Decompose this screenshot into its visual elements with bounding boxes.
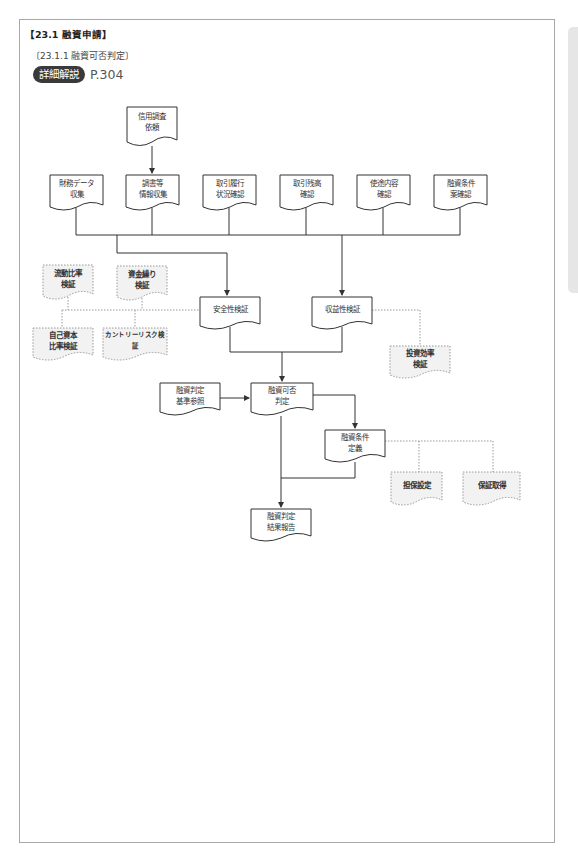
node-cash-flow: 資金繰り 検証: [117, 266, 167, 294]
node-equity-ratio: 自己資本 比率検証: [33, 328, 93, 354]
node-financial-data: 財務データ 収集: [50, 175, 103, 203]
node-loan-terms-check: 融資条件 案確認: [434, 175, 487, 203]
node-profitability-check: 収益性検証: [312, 297, 372, 322]
node-country-risk: カントリーリスク検証: [103, 328, 167, 354]
node-transaction-balance: 取引残高 確認: [280, 175, 333, 203]
node-approval-decision: 融資可否 判定: [251, 383, 313, 409]
node-loan-terms-definition: 融資条件 定義: [325, 430, 385, 456]
node-investment-efficiency: 投資効率 検証: [390, 346, 450, 372]
node-usage-check: 使途内容 確認: [357, 175, 410, 203]
node-survey-info: 調書等 情報収集: [126, 175, 179, 203]
node-transaction-history: 取引履行 状況確認: [203, 175, 256, 203]
node-result-report: 融資判定 結果報告: [251, 509, 311, 535]
node-collateral: 担保設定: [391, 472, 442, 499]
node-credit-request: 信用調査 依頼: [127, 107, 177, 137]
node-current-ratio: 流動比率 検証: [43, 265, 93, 293]
node-safety-check: 安全性検証: [200, 297, 260, 322]
node-criteria-reference: 融資判定 基準参照: [160, 383, 220, 409]
node-guarantee: 保証取得: [463, 472, 520, 499]
